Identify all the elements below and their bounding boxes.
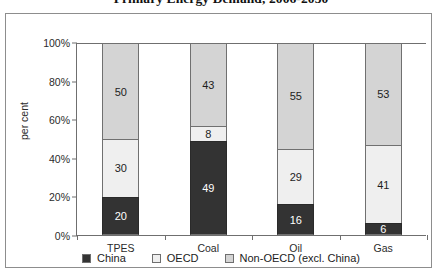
bar-segment[interactable]: 49 xyxy=(190,141,227,235)
chart-legend: ChinaOECDNon-OECD (excl. China) xyxy=(0,252,442,264)
legend-label: OECD xyxy=(167,252,199,264)
bar-segment-value: 43 xyxy=(202,79,214,91)
bar-segment[interactable]: 50 xyxy=(102,43,139,139)
bar-segment-value: 16 xyxy=(290,214,302,226)
y-axis-tick-mark xyxy=(72,120,77,121)
y-axis-tick-mark xyxy=(72,81,77,82)
bar-segment[interactable]: 8 xyxy=(190,126,227,141)
bar-tpes[interactable]: 503020 xyxy=(102,43,139,235)
bar-segment-value: 55 xyxy=(290,90,302,102)
bar-segment[interactable]: 20 xyxy=(102,197,139,235)
bar-segment[interactable]: 16 xyxy=(277,204,314,235)
bar-coal[interactable]: 43849 xyxy=(190,43,227,235)
legend-swatch-icon xyxy=(152,254,161,263)
legend-swatch-icon xyxy=(225,254,234,263)
y-axis-tick-mark xyxy=(72,197,77,198)
bar-segment[interactable]: 53 xyxy=(365,43,402,145)
bar-segment-value: 41 xyxy=(377,179,389,191)
legend-item[interactable]: China xyxy=(82,252,126,264)
x-axis-tick-mark xyxy=(165,235,166,240)
plot-area: 100%80%60%40%20%0% 503020438495529165341… xyxy=(76,43,426,236)
y-axis-tick-mark xyxy=(72,43,77,44)
bar-segment-value: 53 xyxy=(377,88,389,100)
chart-title: Primary Energy Demand, 2006-2030 xyxy=(0,0,442,7)
bar-segment[interactable]: 43 xyxy=(190,43,227,126)
bar-oil[interactable]: 552916 xyxy=(277,43,314,235)
x-axis-tick-mark xyxy=(427,235,428,240)
legend-item[interactable]: OECD xyxy=(152,252,199,264)
bar-segment[interactable]: 29 xyxy=(277,149,314,205)
y-axis-label: per cent xyxy=(18,102,30,140)
x-axis-tick-mark xyxy=(252,235,253,240)
legend-label: China xyxy=(97,252,126,264)
bar-segment-value: 30 xyxy=(115,162,127,174)
bar-segment-value: 20 xyxy=(115,210,127,222)
legend-swatch-icon xyxy=(82,254,91,263)
bar-segment[interactable]: 30 xyxy=(102,139,139,197)
chart-page: Primary Energy Demand, 2006-2030 per cen… xyxy=(0,0,442,280)
bar-segment-value: 49 xyxy=(202,182,214,194)
bar-gas[interactable]: 53416 xyxy=(365,43,402,235)
bar-segment-value: 6 xyxy=(380,223,386,235)
legend-item[interactable]: Non-OECD (excl. China) xyxy=(225,252,360,264)
bar-segment[interactable]: 6 xyxy=(365,223,402,235)
figure-frame: per cent 100%80%60%40%20%0% 503020438495… xyxy=(5,13,432,268)
bar-segment[interactable]: 55 xyxy=(277,43,314,149)
y-axis-tick-mark xyxy=(72,158,77,159)
bar-segment-value: 29 xyxy=(290,171,302,183)
bar-segment-value: 50 xyxy=(115,86,127,98)
bar-segment[interactable]: 41 xyxy=(365,145,402,224)
bar-segment-value: 8 xyxy=(205,128,211,140)
x-axis-tick-mark xyxy=(77,235,78,240)
legend-label: Non-OECD (excl. China) xyxy=(240,252,360,264)
x-axis-tick-mark xyxy=(340,235,341,240)
